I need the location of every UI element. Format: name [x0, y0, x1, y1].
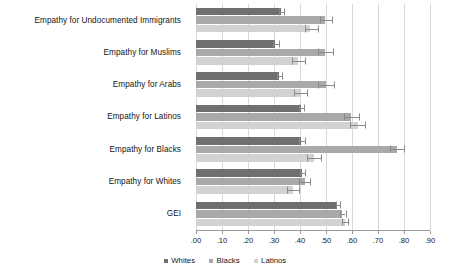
x-tick — [196, 231, 197, 234]
bar-row — [196, 146, 430, 154]
legend-swatch-icon — [254, 259, 258, 263]
bar-row — [196, 16, 430, 24]
x-tick — [378, 231, 379, 234]
bar-whites — [196, 40, 275, 48]
error-bar-cap — [340, 210, 341, 217]
bar-row — [196, 25, 430, 33]
bar-whites — [196, 72, 279, 80]
error-bar-cap — [284, 8, 285, 15]
error-bar-cap — [332, 17, 333, 24]
error-bar — [390, 149, 404, 150]
bar-row — [196, 202, 430, 210]
x-tick — [352, 231, 353, 234]
error-bar-cap — [344, 113, 345, 120]
bar-group — [196, 4, 430, 36]
category-label: Empathy for Arabs — [0, 69, 188, 101]
legend-item-whites[interactable]: Whites — [164, 256, 195, 265]
legend-swatch-icon — [209, 259, 213, 263]
x-tick-label: .50 — [321, 236, 332, 245]
error-bar-cap — [305, 170, 306, 177]
x-tick-label: .90 — [425, 236, 436, 245]
error-bar-cap — [307, 154, 308, 161]
bar-row — [196, 122, 430, 130]
legend-label: Whites — [171, 256, 195, 265]
bar-group — [196, 36, 430, 68]
gridline — [430, 4, 431, 230]
error-bar-cap — [310, 178, 311, 185]
plot-area — [196, 4, 430, 230]
error-bar-cap — [305, 137, 306, 144]
bar-group — [196, 133, 430, 165]
legend-item-blacks[interactable]: Blacks — [209, 256, 239, 265]
error-bar-cap — [299, 187, 300, 194]
x-tick — [274, 231, 275, 234]
bar-blacks — [196, 113, 351, 121]
error-bar-cap — [305, 57, 306, 64]
bar-row — [196, 154, 430, 162]
legend-item-latinos[interactable]: Latinos — [254, 256, 287, 265]
bar-blacks — [196, 146, 397, 154]
bar-latinos — [196, 89, 301, 97]
bar-chart: Empathy for Undocumented ImmigrantsEmpat… — [0, 0, 450, 277]
category-label: Empathy for Muslims — [0, 36, 188, 68]
bar-row — [196, 186, 430, 194]
bar-latinos — [196, 154, 314, 162]
error-bar-cap — [333, 49, 334, 56]
error-bar — [318, 52, 333, 53]
error-bar-cap — [299, 178, 300, 185]
category-axis-labels: Empathy for Undocumented ImmigrantsEmpat… — [0, 4, 188, 230]
x-tick — [430, 231, 431, 234]
error-bar-cap — [348, 219, 349, 226]
chart-legend: WhitesBlacksLatinos — [0, 256, 450, 265]
x-tick — [222, 231, 223, 234]
error-bar-cap — [304, 105, 305, 112]
x-tick-label: .20 — [243, 236, 254, 245]
error-bar-cap — [294, 90, 295, 97]
legend-swatch-icon — [164, 259, 168, 263]
error-bar-cap — [282, 73, 283, 80]
error-bar-cap — [318, 49, 319, 56]
bar-whites — [196, 105, 301, 113]
error-bar-cap — [359, 113, 360, 120]
x-tick — [248, 231, 249, 234]
bar-whites — [196, 137, 301, 145]
bar-row — [196, 40, 430, 48]
error-bar — [299, 182, 310, 183]
error-bar-cap — [287, 187, 288, 194]
bar-blacks — [196, 81, 326, 89]
x-tick-label: .60 — [347, 236, 358, 245]
x-tick — [300, 231, 301, 234]
bar-row — [196, 89, 430, 97]
bar-blacks — [196, 49, 325, 57]
bar-row — [196, 81, 430, 89]
bar-group — [196, 198, 430, 230]
x-tick-label: .70 — [373, 236, 384, 245]
error-bar-cap — [336, 202, 337, 209]
error-bar-cap — [390, 146, 391, 153]
bar-whites — [196, 202, 337, 210]
category-label: Empathy for Blacks — [0, 133, 188, 165]
error-bar-cap — [305, 25, 306, 32]
error-bar — [320, 20, 331, 21]
error-bar-cap — [334, 81, 335, 88]
x-tick-label: .00 — [191, 236, 202, 245]
bar-whites — [196, 169, 302, 177]
x-axis-ticks — [196, 231, 430, 235]
bar-row — [196, 113, 430, 121]
error-bar-cap — [320, 17, 321, 24]
error-bar — [292, 61, 305, 62]
bar-group — [196, 101, 430, 133]
error-bar — [287, 190, 299, 191]
error-bar-cap — [340, 202, 341, 209]
bar-blacks — [196, 210, 342, 218]
error-bar-cap — [350, 122, 351, 129]
error-bar-cap — [307, 90, 308, 97]
bar-row — [196, 178, 430, 186]
bar-row — [196, 105, 430, 113]
error-bar — [344, 117, 359, 118]
bar-row — [196, 219, 430, 227]
category-label: Empathy for Whites — [0, 165, 188, 197]
bar-row — [196, 8, 430, 16]
error-bar-cap — [299, 137, 300, 144]
error-bar-cap — [404, 146, 405, 153]
